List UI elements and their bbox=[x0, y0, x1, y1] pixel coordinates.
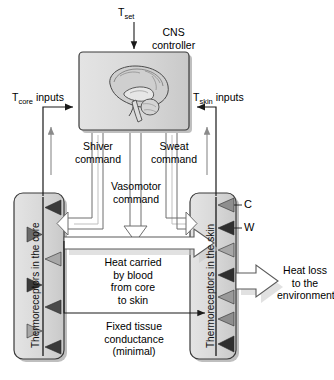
heat-carried-label: Heat carried by blood from core to skin bbox=[92, 256, 174, 306]
vasomotor-command-label: Vasomotor command bbox=[102, 180, 170, 205]
warm-receptor-label: W bbox=[244, 221, 254, 233]
shiver-command-label: Shiver command bbox=[66, 140, 130, 165]
skin-receptors-label: Thermoreceptors in the skin bbox=[205, 224, 216, 348]
cns-controller-box bbox=[79, 52, 192, 133]
t-core-inputs-label: Tcore inputs bbox=[12, 91, 64, 104]
thermoregulation-diagram: Tset CNS controller Tcore inputs Tskin i… bbox=[0, 0, 334, 380]
heat-loss-arrow bbox=[236, 265, 283, 303]
t-skin-inputs-label: Tskin inputs bbox=[193, 91, 244, 104]
sweat-command-label: Sweat command bbox=[142, 140, 206, 165]
heat-loss-label: Heat loss to the environment bbox=[277, 264, 333, 302]
t-set-label: Tset bbox=[118, 6, 134, 19]
cns-controller-label: CNS controller bbox=[152, 26, 195, 51]
cold-receptor-label: C bbox=[244, 198, 252, 210]
core-receptors-label: Thermoreceptors in the core bbox=[30, 222, 41, 348]
fixed-tissue-conductance-label: Fixed tissue conductance (minimal) bbox=[92, 320, 176, 358]
